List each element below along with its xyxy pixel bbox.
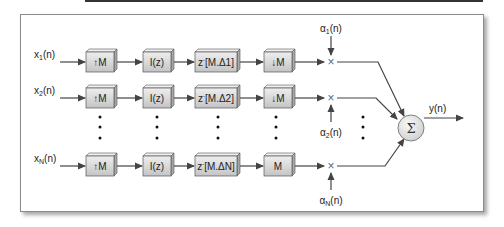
sum-input-1	[337, 62, 404, 116]
row-2: x2(n) ↑M I(z) z-[M.Δ2] ↓M × α2(n)	[34, 85, 397, 139]
multiplier-1: ×	[327, 55, 334, 69]
upsample-label-1: ↑M	[93, 57, 106, 68]
upsample-label-n: ↑M	[93, 161, 106, 172]
weight-label-1: α1(n)	[320, 23, 342, 35]
multiplier-n: ×	[327, 159, 334, 173]
input-label-2: x2(n)	[34, 85, 55, 97]
sigma-icon: Σ	[406, 121, 415, 136]
upsample-label-2: ↑M	[93, 93, 106, 104]
downsample-label-n: M	[274, 161, 282, 172]
input-label-n: xN(n)	[34, 153, 56, 165]
summation-node: Σ y(n)	[398, 103, 463, 141]
input-label-1: x1(n)	[34, 49, 55, 61]
sum-input-2	[337, 98, 397, 119]
filter-label-n: I(z)	[150, 161, 164, 172]
filter-label-1: I(z)	[150, 57, 164, 68]
output-label: y(n)	[429, 103, 446, 114]
weight-label-n: αN(n)	[319, 195, 342, 207]
row-n: xN(n) ↑M I(z) z-[M.ΔN] M × αN(n)	[34, 139, 404, 207]
filter-label-2: I(z)	[150, 93, 164, 104]
multiplier-2: ×	[327, 91, 334, 105]
block-diagram: x1(n) ↑M I(z) z-[M.Δ1] ↓M × α1(n) x2(n) …	[0, 0, 504, 227]
weight-label-2: α2(n)	[320, 127, 342, 139]
sum-input-n	[337, 139, 404, 166]
downsample-label-2: ↓M	[271, 93, 284, 104]
downsample-label-1: ↓M	[271, 57, 284, 68]
